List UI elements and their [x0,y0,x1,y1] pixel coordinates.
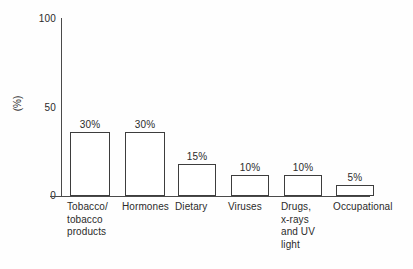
x-axis-category-labels: Tobacco/ tobacco productsHormonesDietary… [61,201,381,267]
bar [231,175,269,196]
category-label: Occupational [333,201,389,214]
x-axis-line [50,196,370,197]
category-label: Dietary [175,201,231,214]
category-label: Hormones [122,201,180,214]
bar [284,175,322,196]
bar-group: 10% [231,18,269,196]
bar-group: 15% [178,18,216,196]
plot-area: 30%30%15%10%10%5% [61,18,370,196]
bar-group: 30% [70,18,110,196]
bar-group: 10% [284,18,322,196]
bar [70,132,110,196]
bar-group: 5% [336,18,374,196]
y-axis-title: (%) [12,83,23,125]
y-axis-tick-50: 50 [22,102,56,113]
bar-value-label: 5% [324,172,386,183]
category-label: Tobacco/ tobacco products [67,201,125,239]
bar-group: 30% [125,18,165,196]
bar [125,132,165,196]
bar-chart: 100 50 0 (%) 30%30%15%10%10%5% Tobacco/ … [0,0,413,269]
y-axis-tick-100: 100 [22,13,56,24]
bar [178,164,216,196]
bar-value-label: 30% [113,119,177,130]
bar-value-label: 15% [166,151,228,162]
bar [336,185,374,196]
category-label: Drugs, x-rays and UV light [281,201,337,251]
category-label: Viruses [228,201,284,214]
